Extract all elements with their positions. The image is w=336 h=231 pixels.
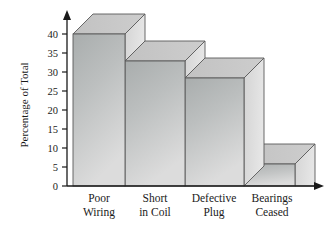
category-label-line1: Bearings bbox=[252, 192, 293, 205]
y-tick-label: 0 bbox=[53, 181, 58, 192]
bar-side-face bbox=[244, 58, 264, 186]
bar-chart-figure: 0 5 10 15 20 25 30 35 40 Percentage of T… bbox=[0, 0, 336, 231]
y-tick-label: 5 bbox=[53, 162, 58, 173]
bar-front-face bbox=[185, 78, 244, 186]
y-axis-ticks bbox=[62, 34, 67, 186]
chart-canvas: 0 5 10 15 20 25 30 35 40 Percentage of T… bbox=[0, 0, 336, 231]
y-tick-label: 35 bbox=[48, 48, 59, 59]
y-tick-label: 20 bbox=[48, 105, 59, 116]
y-tick-label: 40 bbox=[48, 29, 59, 40]
y-tick-label: 25 bbox=[48, 86, 59, 97]
arrow-up-icon bbox=[63, 10, 71, 20]
category-label-line2: in Coil bbox=[139, 206, 171, 218]
bar-group-defective-plug bbox=[185, 58, 264, 186]
x-axis-category-labels: Poor Wiring Short in Coil Defective Plug… bbox=[83, 192, 293, 219]
category-label-line1: Poor bbox=[88, 192, 110, 204]
y-tick-label: 10 bbox=[48, 143, 59, 154]
y-tick-label: 15 bbox=[48, 124, 59, 135]
bar-front-face bbox=[73, 34, 125, 186]
category-label-line2: Ceased bbox=[255, 206, 288, 218]
y-tick-label: 30 bbox=[48, 67, 59, 78]
category-label-line2: Plug bbox=[203, 206, 224, 219]
bar-front-face bbox=[125, 61, 185, 186]
y-axis-tick-labels: 0 5 10 15 20 25 30 35 40 bbox=[48, 29, 59, 192]
category-label-line2: Wiring bbox=[83, 206, 115, 219]
category-label-line1: Defective bbox=[192, 192, 237, 204]
arrow-right-icon bbox=[314, 182, 324, 190]
y-axis-title: Percentage of Total bbox=[18, 62, 30, 147]
category-label-line1: Short bbox=[143, 192, 169, 204]
